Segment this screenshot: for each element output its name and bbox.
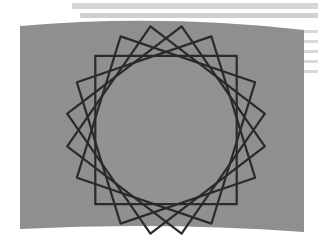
crt-screen — [0, 0, 318, 248]
rosette-figure — [0, 0, 318, 248]
